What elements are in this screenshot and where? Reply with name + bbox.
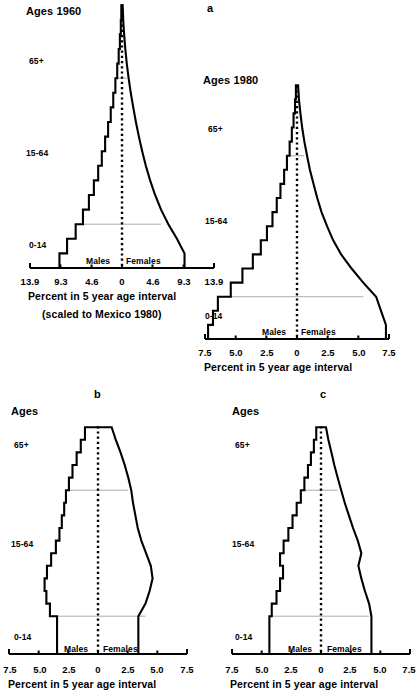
chart-title-c: Ages — [232, 405, 259, 417]
xtick-1960-4: 4.6 — [146, 276, 160, 287]
xtick-1960-3: 0 — [119, 276, 124, 287]
females-label-b: Females — [103, 644, 138, 654]
xtick-1960-0: 13.9 — [21, 276, 40, 287]
xtick-1960-1: 9.3 — [54, 276, 68, 287]
males-label-b: Males — [64, 644, 88, 654]
panel-letter-a: a — [207, 2, 213, 14]
xtick-c-5: 5.0 — [373, 664, 387, 675]
age-label-15-64-b: 15-64 — [11, 539, 33, 549]
xtick-1960-2: 4.6 — [85, 276, 99, 287]
xtick-c-1: 5.0 — [255, 664, 269, 675]
age-label-0-14-b: 0-14 — [14, 632, 31, 642]
pyramid-panel-c — [210, 395, 420, 660]
age-label-0-14-1980: 0-14 — [205, 311, 222, 321]
males-label-1980: Males — [262, 327, 286, 337]
chart-title-b: Ages — [11, 405, 38, 417]
x-axis-label-c: Percent in 5 year age interval — [230, 678, 378, 690]
xtick-b-4: 2.5 — [121, 664, 135, 675]
age-label-65plus-b: 65+ — [14, 440, 29, 450]
age-label-65plus-1980: 65+ — [208, 124, 223, 134]
age-label-65plus-1960: 65+ — [29, 56, 44, 66]
males-label-1960: Males — [86, 256, 110, 266]
xtick-c-0: 7.5 — [225, 664, 239, 675]
females-label-1960: Females — [126, 256, 161, 266]
xtick-b-6: 7.5 — [180, 664, 194, 675]
pyramid-panel-b — [0, 395, 210, 660]
xtick-1980-3: 0 — [294, 347, 299, 358]
pyramid-panel-1980 — [195, 70, 420, 360]
xtick-b-5: 5.0 — [150, 664, 164, 675]
xtick-1980-5: 5.0 — [352, 347, 366, 358]
age-label-0-14-1960: 0-14 — [29, 240, 46, 250]
xtick-c-2: 2.5 — [284, 664, 298, 675]
xtick-1980-2: 2.5 — [260, 347, 274, 358]
xtick-b-3: 0 — [95, 664, 100, 675]
chart-title-1960: Ages 1960 — [26, 5, 81, 17]
pyramid-chart-b — [0, 395, 210, 660]
xtick-c-3: 0 — [318, 664, 323, 675]
panel-letter-b: b — [94, 388, 101, 400]
age-label-0-14-c: 0-14 — [235, 632, 252, 642]
age-label-15-64-c: 15-64 — [232, 539, 254, 549]
pyramid-chart-1980 — [195, 70, 420, 360]
age-label-65plus-c: 65+ — [235, 440, 250, 450]
xtick-1980-1: 5.0 — [229, 347, 243, 358]
age-label-15-64-1980: 15-64 — [205, 216, 227, 226]
xtick-b-2: 2.5 — [62, 664, 76, 675]
xtick-c-4: 2.5 — [343, 664, 357, 675]
chart-title-1980: Ages 1980 — [203, 74, 258, 86]
xtick-1980-0: 7.5 — [198, 347, 212, 358]
pyramid-chart-c — [210, 395, 420, 660]
panel-letter-c: c — [320, 388, 326, 400]
age-label-15-64-1960: 15-64 — [26, 148, 48, 158]
xtick-1960-5: 9.3 — [177, 276, 191, 287]
xtick-b-1: 5.0 — [33, 664, 47, 675]
females-label-1980: Females — [301, 327, 336, 337]
xtick-b-0: 7.5 — [3, 664, 17, 675]
males-label-c: Males — [288, 644, 312, 654]
xtick-1980-4: 2.5 — [321, 347, 335, 358]
x-axis-label-1980: Percent in 5 year age interval — [204, 361, 352, 373]
xtick-c-6: 7.5 — [402, 664, 416, 675]
x-axis-label-1960: Percent in 5 year age interval — [28, 290, 176, 302]
x-axis-sublabel-1960: (scaled to Mexico 1980) — [42, 308, 162, 320]
xtick-1980-6: 7.5 — [382, 347, 396, 358]
females-label-c: Females — [327, 644, 362, 654]
x-axis-label-b: Percent in 5 year age interval — [8, 678, 156, 690]
